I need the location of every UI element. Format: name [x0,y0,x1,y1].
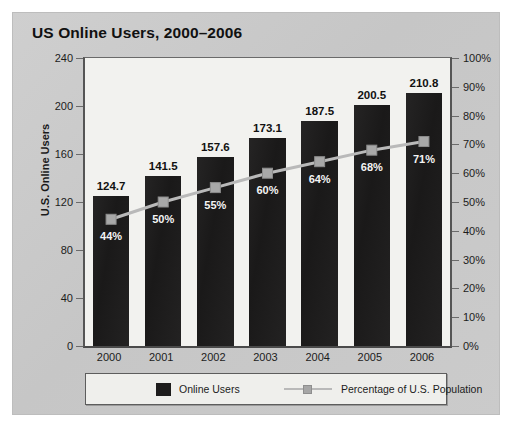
y-axis-left-tick-label: 80 [61,245,73,256]
chart-card: US Online Users, 2000–2006 U.S. Online U… [12,12,500,415]
y-axis-right-tick-label: 70% [463,139,485,150]
percentage-value-label: 44% [93,230,130,242]
y-axis-right-tick-label: 0% [463,341,479,352]
y-axis-right-tick-label: 10% [463,312,485,323]
y-axis-left-tick-label: 40 [61,293,73,304]
bar-value-label: 187.5 [301,105,338,117]
legend-label-online-users: Online Users [179,383,240,395]
y-axis-right-tick [452,288,459,289]
x-axis-tick-label: 2005 [344,351,396,363]
bar-value-label: 141.5 [145,160,182,172]
legend-label-percentage: Percentage of U.S. Population [341,383,482,395]
y-axis-left-tick [76,202,83,203]
y-axis-right-tick [452,87,459,88]
y-axis-left-tick [76,154,83,155]
percentage-value-label: 71% [406,153,443,165]
percentage-value-label: 68% [354,161,391,173]
y-axis-left-tick-label: 0 [67,341,73,352]
y-axis-left-tick-label: 120 [55,197,73,208]
bar-value-label: 200.5 [354,89,391,101]
percentage-value-label: 55% [197,199,234,211]
x-axis-tick-label: 2006 [396,351,448,363]
legend-bar-swatch-icon [156,383,171,396]
y-axis-right-tick [452,202,459,203]
bar-value-label: 124.7 [93,180,130,192]
y-axis-right-tick-label: 50% [463,197,485,208]
x-axis-tick-label: 2000 [83,351,135,363]
y-axis-left-tick [76,58,83,59]
x-axis-tick-label: 2002 [187,351,239,363]
legend-line-swatch-icon [284,383,332,395]
y-axis-right-tick [452,317,459,318]
y-axis-right-tick-label: 30% [463,254,485,265]
y-axis-right-tick [452,116,459,117]
plot-area: 04080120160200240 0%10%20%30%40%50%60%70… [83,57,452,348]
bar-value-label: 210.8 [406,77,443,89]
y-axis-title: U.S. Online Users [39,110,51,230]
legend-item-online-users: Online Users [156,374,240,404]
percentage-value-label: 50% [145,213,182,225]
bar [249,138,286,346]
y-axis-left-tick-label: 200 [55,101,73,112]
bar [145,176,182,346]
bar-group: 173.160% [249,58,286,346]
bar-group: 210.871% [406,58,443,346]
bar-group: 187.564% [301,58,338,346]
y-axis-right-tick [452,260,459,261]
bar [354,105,391,346]
bar-group: 141.550% [145,58,182,346]
y-axis-right-tick-label: 20% [463,283,485,294]
x-axis-tick-label: 2001 [135,351,187,363]
bar-group: 200.568% [354,58,391,346]
y-axis-left-tick [76,106,83,107]
bar-value-label: 173.1 [249,122,286,134]
percentage-value-label: 60% [249,184,286,196]
bar-value-label: 157.6 [197,141,234,153]
y-axis-left-tick-label: 160 [55,149,73,160]
x-axis-tick-label: 2003 [239,351,291,363]
y-axis-left-tick [76,346,83,347]
y-axis-right-tick-label: 80% [463,110,485,121]
y-axis-right-tick-label: 40% [463,225,485,236]
y-axis-right-tick [452,144,459,145]
y-axis-left-tick [76,298,83,299]
y-axis-right-tick-label: 60% [463,168,485,179]
bar [197,157,234,346]
y-axis-right-tick-label: 100% [463,53,491,64]
bar [93,196,130,346]
y-axis-left-tick-label: 240 [55,53,73,64]
bar [406,93,443,346]
y-axis-right-tick [452,173,459,174]
legend-item-percentage: Percentage of U.S. Population [284,374,482,404]
percentage-value-label: 64% [301,173,338,185]
x-axis-tick-label: 2004 [292,351,344,363]
y-axis-right-tick [452,231,459,232]
chart-legend: Online Users Percentage of U.S. Populati… [85,373,447,405]
y-axis-left-tick [76,250,83,251]
bar-group: 157.655% [197,58,234,346]
y-axis-right-tick [452,58,459,59]
y-axis-right-tick [452,346,459,347]
page-title: US Online Users, 2000–2006 [32,24,242,42]
bar-group: 124.744% [93,58,130,346]
y-axis-right-tick-label: 90% [463,81,485,92]
bar [301,121,338,346]
